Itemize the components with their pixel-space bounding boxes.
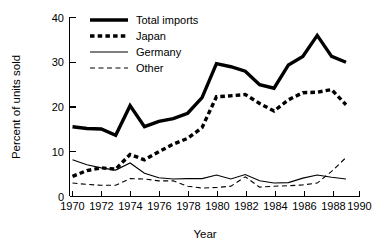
series-line-total-imports — [73, 35, 347, 135]
y-tick-label-10: 10 — [52, 146, 64, 158]
x-tick-label-1980: 1980 — [205, 200, 229, 212]
x-axis: 1970 1972 1974 1976 1978 1980 1982 1984 … — [60, 191, 371, 241]
series-group — [73, 35, 347, 188]
x-tick-label-1972: 1972 — [89, 200, 113, 212]
y-tick-label-20: 20 — [52, 101, 64, 113]
x-axis-title: Year — [193, 228, 216, 240]
y-axis-title: Percent of units sold — [10, 55, 22, 159]
x-tick-label-1978: 1978 — [176, 200, 200, 212]
series-line-other — [73, 158, 347, 188]
x-tick-label-1988: 1988 — [321, 200, 345, 212]
series-line-germany — [73, 160, 347, 183]
legend-label-total-imports: Total imports — [136, 14, 199, 26]
x-tick-label-1974: 1974 — [118, 200, 142, 212]
x-tick-label-1976: 1976 — [147, 200, 171, 212]
legend-label-japan: Japan — [136, 30, 166, 42]
x-tick-label-1986: 1986 — [292, 200, 316, 212]
y-tick-label-40: 40 — [52, 12, 64, 24]
y-tick-label-30: 30 — [52, 56, 64, 68]
x-tick-label-1990: 1990 — [347, 200, 371, 212]
legend-label-germany: Germany — [136, 46, 182, 58]
line-chart-canvas: 40 30 20 10 0 Percent of units sold 1970… — [0, 0, 375, 249]
legend: Total imports Japan Germany Other — [90, 14, 199, 74]
x-tick-label-1970: 1970 — [60, 200, 84, 212]
chart-figure: 40 30 20 10 0 Percent of units sold 1970… — [0, 0, 375, 249]
x-tick-label-1984: 1984 — [263, 200, 287, 212]
x-tick-label-1982: 1982 — [234, 200, 258, 212]
y-axis: 40 30 20 10 0 Percent of units sold — [10, 12, 76, 203]
legend-label-other: Other — [136, 62, 164, 74]
